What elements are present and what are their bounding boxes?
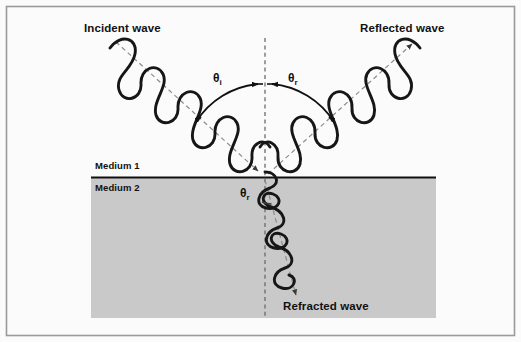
angle-incidence-label: θi xyxy=(213,71,222,87)
wave-refraction-figure: Incident wave Reflected wave Refracted w… xyxy=(0,0,521,342)
theta-subscript: i xyxy=(220,78,222,87)
medium-2-label: Medium 2 xyxy=(95,182,140,193)
incident-wave-label: Incident wave xyxy=(84,22,161,34)
theta-subscript: r xyxy=(295,78,298,87)
incident-ray-axis xyxy=(116,42,258,171)
diagram-canvas xyxy=(0,0,521,342)
theta-symbol: θ xyxy=(240,186,247,200)
incident-wave-curve xyxy=(110,39,270,172)
angle-refraction-label: θr xyxy=(240,186,250,202)
angle-reflection-label: θr xyxy=(288,71,298,87)
refracted-wave-label: Refracted wave xyxy=(283,300,369,312)
reflected-wave-curve xyxy=(260,39,420,172)
theta-symbol: θ xyxy=(288,71,295,85)
medium-1-label: Medium 1 xyxy=(95,160,140,171)
theta-symbol: θ xyxy=(213,71,220,85)
theta-subscript: r xyxy=(247,193,250,202)
reflected-wave-label: Reflected wave xyxy=(360,22,445,34)
reflected-ray-axis xyxy=(268,44,412,174)
